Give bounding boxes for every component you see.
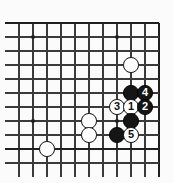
stone-layer: 43125 <box>0 0 173 183</box>
stone-move-number: 2 <box>142 101 148 112</box>
stone-move-number: 1 <box>128 101 134 112</box>
go-board-diagram: 43125 <box>0 0 173 183</box>
stone-move-5[interactable]: 5 <box>123 127 139 143</box>
stone-move-number: 5 <box>128 129 134 140</box>
stone-white[interactable] <box>81 127 97 143</box>
stone-move-number: 3 <box>114 101 120 112</box>
stone-white[interactable] <box>123 57 139 73</box>
stone-move-number: 4 <box>142 87 148 98</box>
stone-move-2[interactable]: 2 <box>137 99 153 115</box>
stone-white[interactable] <box>39 141 55 157</box>
